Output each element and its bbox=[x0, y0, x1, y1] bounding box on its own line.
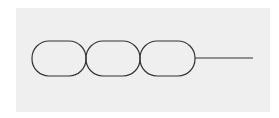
chain-diagram bbox=[0, 0, 279, 118]
capsule-1 bbox=[32, 41, 86, 76]
capsule-3 bbox=[140, 41, 195, 76]
capsule-2 bbox=[86, 41, 140, 76]
